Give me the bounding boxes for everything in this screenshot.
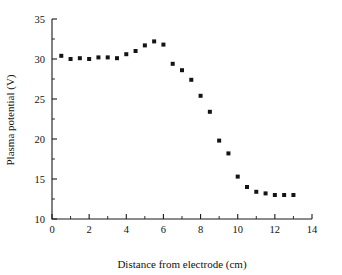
data-point — [124, 52, 128, 56]
x-tick-label: 0 — [49, 224, 54, 235]
data-point — [273, 193, 277, 197]
data-point — [226, 151, 230, 155]
data-point — [78, 56, 82, 60]
y-axis-title: Plasma potential (V) — [4, 74, 17, 165]
x-tick-label: 12 — [270, 224, 281, 235]
data-point — [264, 191, 268, 195]
data-point-markers — [59, 39, 295, 197]
x-tick-label: 2 — [87, 224, 92, 235]
axis-lines — [52, 19, 312, 219]
data-point — [69, 57, 73, 61]
x-tick-label: 8 — [198, 224, 203, 235]
data-point — [254, 190, 258, 194]
data-point — [171, 62, 175, 66]
y-tick-label: 25 — [35, 94, 46, 105]
y-tick-label: 15 — [35, 174, 46, 185]
data-point — [199, 94, 203, 98]
x-axis-title: Distance from electrode (cm) — [117, 258, 247, 271]
data-point — [96, 55, 100, 59]
y-tick-label: 20 — [35, 134, 46, 145]
x-tick-label: 6 — [161, 224, 166, 235]
x-tick-label: 4 — [124, 224, 130, 235]
data-point — [180, 68, 184, 72]
y-tick-label: 30 — [35, 54, 46, 65]
x-axis-tick-labels: 02468101214 — [49, 224, 318, 235]
x-tick-label: 10 — [232, 224, 243, 235]
data-point — [106, 55, 110, 59]
x-tick-label: 14 — [307, 224, 318, 235]
y-tick-label: 35 — [35, 14, 46, 25]
data-point — [217, 139, 221, 143]
data-point — [245, 185, 249, 189]
data-point — [143, 43, 147, 47]
y-tick-label: 10 — [35, 214, 46, 225]
data-point — [189, 78, 193, 82]
plasma-potential-scatter-chart: 02468101214 101520253035 Distance from e… — [0, 0, 342, 275]
data-point — [134, 49, 138, 53]
data-point — [152, 39, 156, 43]
figure-container: 02468101214 101520253035 Distance from e… — [0, 0, 342, 275]
data-point — [161, 43, 165, 47]
y-axis-tick-labels: 101520253035 — [35, 14, 46, 225]
data-point — [236, 175, 240, 179]
data-point — [87, 57, 91, 61]
data-point — [282, 193, 286, 197]
data-point — [115, 56, 119, 60]
data-point — [59, 54, 63, 58]
major-tick-marks — [52, 19, 312, 219]
data-point — [208, 110, 212, 114]
data-point — [291, 193, 295, 197]
